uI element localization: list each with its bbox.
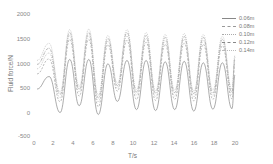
legend: 0.06m 0.08m 0.10m 0.12m 0.14m: [222, 14, 254, 54]
x-tick: 6: [91, 140, 94, 146]
legend-swatch: [222, 42, 236, 43]
y-tick: 0: [27, 110, 30, 116]
y-tick: 1500: [17, 36, 30, 42]
x-tick: 8: [111, 140, 114, 146]
x-tick: 4: [71, 140, 74, 146]
y-tick: 1000: [17, 61, 30, 67]
legend-item: 0.06m: [222, 14, 254, 22]
x-tick: 20: [232, 140, 239, 146]
x-tick: 14: [171, 140, 178, 146]
y-tick: 500: [20, 85, 30, 91]
legend-swatch: [222, 18, 236, 19]
x-tick: 18: [211, 140, 218, 146]
legend-label: 0.12m: [239, 39, 254, 45]
fluid-force-chart: 2000 1500 1000 500 0 -500 0 2 4 6 8 10 1…: [0, 0, 273, 164]
x-tick: 2: [51, 140, 54, 146]
legend-swatch: [222, 26, 236, 27]
x-tick: 10: [130, 140, 137, 146]
legend-label: 0.10m: [239, 31, 254, 37]
x-axis-label: T/s: [128, 152, 137, 159]
legend-label: 0.06m: [239, 15, 254, 21]
series-line-0.14m: [37, 29, 235, 95]
legend-item: 0.14m: [222, 46, 254, 54]
x-tick: 12: [151, 140, 158, 146]
legend-label: 0.08m: [239, 23, 254, 29]
series-line-0.06m: [37, 59, 235, 114]
y-tick: 2000: [17, 11, 30, 17]
legend-swatch: [222, 34, 236, 35]
y-tick: -500: [18, 133, 30, 139]
y-axis-label: Fluid force/N: [7, 55, 14, 92]
legend-item: 0.12m: [222, 38, 254, 46]
legend-swatch: [222, 50, 236, 51]
series-line-0.12m: [37, 33, 235, 98]
x-tick: 16: [191, 140, 198, 146]
legend-item: 0.08m: [222, 22, 254, 30]
legend-label: 0.14m: [239, 47, 254, 53]
legend-item: 0.10m: [222, 30, 254, 38]
x-tick: 0: [32, 140, 35, 146]
